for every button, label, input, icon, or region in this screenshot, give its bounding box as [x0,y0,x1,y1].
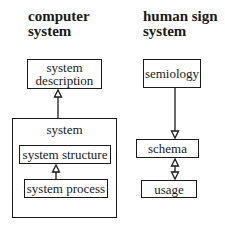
arrowhead-down-icon [172,172,179,179]
arrowhead-up-icon [53,165,60,172]
arrowhead-up-icon [172,159,179,166]
connector-arrows [0,0,225,230]
arrowhead-down-icon [172,131,179,138]
arrowhead-up-icon [55,90,62,97]
